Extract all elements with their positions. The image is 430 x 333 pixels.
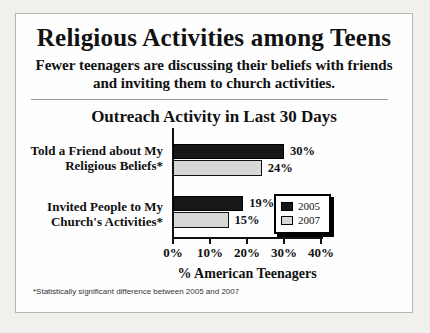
legend-item: 2007: [281, 214, 325, 227]
x-axis-tick-label: 0%: [153, 245, 193, 261]
category-label: Told a Friend about MyReligious Beliefs*: [16, 144, 163, 173]
category-label: Invited People to MyChurch's Activities*: [16, 200, 163, 229]
subtitle: Fewer teenagers are discussing their bel…: [16, 56, 412, 92]
divider: [31, 99, 388, 100]
chart-title: Outreach Activity in Last 30 Days: [16, 107, 412, 127]
x-axis-tick: [283, 237, 285, 244]
page-title: Religious Activities among Teens: [16, 24, 412, 52]
legend-label: 2007: [298, 214, 320, 227]
legend: 20052007: [274, 194, 331, 234]
bar-2005: [173, 144, 284, 159]
x-axis-tick: [172, 237, 174, 244]
legend-item: 2005: [281, 200, 325, 213]
subtitle-line-2: and inviting them to church activities.: [16, 74, 412, 92]
value-label: 19%: [249, 196, 274, 211]
x-axis-tick-label: 40%: [301, 245, 341, 261]
x-axis-tick-label: 10%: [190, 245, 230, 261]
chart-card: Religious Activities among Teens Fewer t…: [15, 13, 413, 313]
x-axis-tick: [246, 237, 248, 244]
bar-2007: [173, 160, 262, 176]
subtitle-line-1: Fewer teenagers are discussing their bel…: [16, 56, 412, 74]
value-label: 30%: [290, 144, 315, 159]
x-axis-tick-label: 20%: [227, 245, 267, 261]
x-axis-tick-label: 30%: [264, 245, 304, 261]
legend-swatch-2005: [281, 202, 293, 211]
legend-label: 2005: [298, 200, 320, 213]
x-axis-tick: [209, 237, 211, 244]
footnote: *Statistically significant difference be…: [33, 287, 239, 296]
value-label: 15%: [235, 213, 260, 228]
value-label: 24%: [268, 161, 293, 176]
bar-2005: [173, 196, 243, 211]
bar-2007: [173, 212, 229, 228]
legend-swatch-2007: [281, 216, 293, 225]
x-axis-title: % American Teenagers: [172, 266, 322, 282]
x-axis-tick: [320, 237, 322, 244]
